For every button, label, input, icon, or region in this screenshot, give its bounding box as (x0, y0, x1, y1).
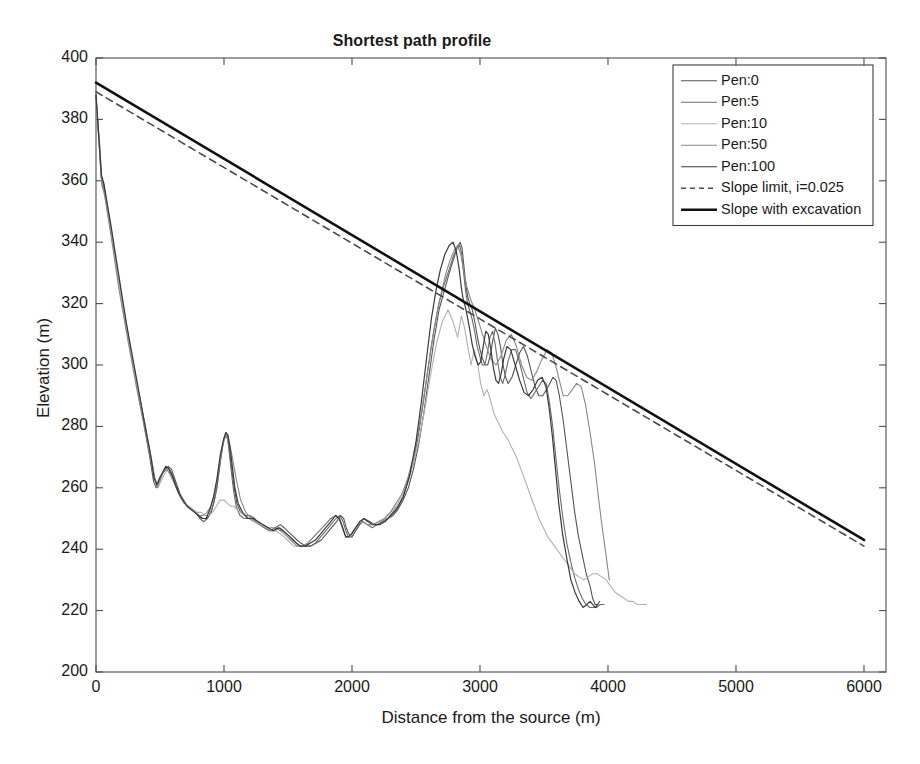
legend-entry-label: Slope with excavation (721, 201, 861, 217)
x-tick-label: 4000 (573, 678, 643, 696)
y-tick-label: 320 (36, 294, 88, 312)
series-line-4 (96, 95, 597, 608)
legend-entry-label: Pen:10 (721, 115, 767, 131)
y-tick-label: 220 (36, 601, 88, 619)
legend-entry-label: Pen:50 (721, 136, 767, 152)
y-tick-label: 300 (36, 355, 88, 373)
y-tick-label: 240 (36, 539, 88, 557)
x-tick-label: 6000 (829, 678, 899, 696)
x-tick-label: 1000 (189, 678, 259, 696)
series-line-3 (96, 98, 609, 580)
x-tick-label: 3000 (445, 678, 515, 696)
legend-entry-label: Slope limit, i=0.025 (721, 179, 844, 195)
y-tick-label: 400 (36, 48, 88, 66)
series-line-1 (96, 98, 604, 608)
legend-entry-label: Pen:5 (721, 93, 759, 109)
y-tick-label: 200 (36, 662, 88, 680)
x-tick-label: 5000 (701, 678, 771, 696)
y-tick-label: 340 (36, 232, 88, 250)
legend-entry-label: Pen:0 (721, 72, 759, 88)
chart-figure: Shortest path profile Distance from the … (0, 0, 920, 764)
x-tick-label: 0 (61, 678, 131, 696)
y-tick-label: 380 (36, 109, 88, 127)
y-tick-label: 360 (36, 171, 88, 189)
plot-canvas (0, 0, 920, 764)
series-line-0 (96, 95, 600, 605)
x-axis-label: Distance from the source (m) (96, 708, 886, 728)
y-tick-label: 260 (36, 478, 88, 496)
legend-entry-label: Pen:100 (721, 158, 775, 174)
y-tick-label: 280 (36, 416, 88, 434)
series-line-2 (96, 101, 646, 604)
x-tick-label: 2000 (317, 678, 387, 696)
